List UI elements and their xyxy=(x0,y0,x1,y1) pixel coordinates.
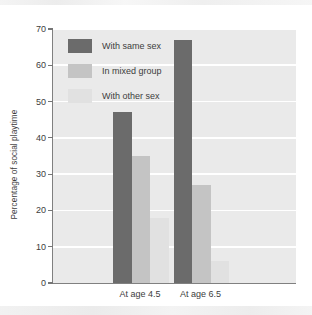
y-axis-tick xyxy=(48,137,53,138)
y-axis-tick-label: 10 xyxy=(36,242,46,252)
y-axis-tick xyxy=(48,65,53,66)
y-axis-tick-label: 40 xyxy=(36,133,46,143)
y-axis-tick-label: 50 xyxy=(36,97,46,107)
scan-artifact-top xyxy=(0,0,312,5)
legend-item-label: In mixed group xyxy=(102,66,162,76)
y-axis-tick-label: 0 xyxy=(41,278,46,288)
y-axis-tick xyxy=(48,101,53,102)
x-axis-category-label: At age 6.5 xyxy=(180,289,221,299)
legend-swatch-icon xyxy=(68,64,92,78)
y-axis-tick xyxy=(48,174,53,175)
bar-1-1 xyxy=(192,185,211,283)
bar-1-0 xyxy=(132,156,151,283)
y-axis-tick xyxy=(48,28,53,29)
y-axis-tick-label: 70 xyxy=(36,24,46,34)
bar-2-1 xyxy=(211,261,230,283)
gridline xyxy=(53,28,296,30)
legend-swatch-icon xyxy=(68,39,92,53)
legend-item: In mixed group xyxy=(68,58,218,83)
y-axis-tick xyxy=(48,282,53,283)
y-axis-tick-label: 30 xyxy=(36,169,46,179)
bar-0-0 xyxy=(113,112,132,283)
y-axis-tick-label: 60 xyxy=(36,60,46,70)
x-axis-category-label: At age 4.5 xyxy=(119,289,160,299)
figure-container: Percentage of social playtime 0102030405… xyxy=(0,0,312,315)
chart-legend: With same sexIn mixed groupWith other se… xyxy=(68,33,218,108)
bar-2-0 xyxy=(150,218,169,283)
y-axis-tick-label: 20 xyxy=(36,205,46,215)
legend-item-label: With same sex xyxy=(102,41,161,51)
legend-item: With same sex xyxy=(68,33,218,58)
y-axis-tick xyxy=(48,246,53,247)
legend-item-label: With other sex xyxy=(102,91,160,101)
y-axis-tick xyxy=(48,210,53,211)
legend-swatch-icon xyxy=(68,89,92,103)
y-axis-title: Percentage of social playtime xyxy=(10,65,19,265)
scan-artifact-bottom xyxy=(0,306,312,315)
legend-item: With other sex xyxy=(68,83,218,108)
